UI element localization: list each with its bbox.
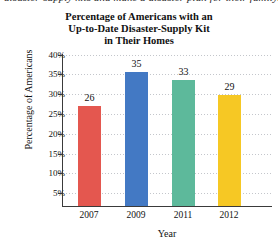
bar-chart-plot: 40% 35% 30% 25% 20% 15% 10% 5% 26 35 33 … bbox=[0, 0, 278, 252]
bar-value-2011: 33 bbox=[158, 67, 209, 77]
bar-value-2012: 29 bbox=[204, 82, 255, 92]
ytick-label-5: 5% bbox=[25, 189, 65, 198]
xtick-label-2011: 2011 bbox=[157, 210, 209, 220]
bar-value-2007: 26 bbox=[64, 93, 115, 103]
bar-value-2009: 35 bbox=[111, 59, 162, 69]
y-axis-title: Percentage of Americans bbox=[23, 20, 34, 180]
gridline-40 bbox=[63, 55, 272, 56]
bar-2011[interactable]: 33 bbox=[172, 80, 195, 206]
bar-2012[interactable]: 29 bbox=[218, 95, 241, 206]
y-axis-line bbox=[62, 54, 63, 207]
xtick-label-2012: 2012 bbox=[203, 210, 255, 220]
x-axis-line bbox=[62, 206, 272, 207]
xtick-label-2009: 2009 bbox=[110, 210, 162, 220]
x-axis-title: Year bbox=[62, 228, 272, 239]
bar-2009[interactable]: 35 bbox=[125, 72, 148, 206]
bar-2007[interactable]: 26 bbox=[78, 106, 101, 206]
xtick-label-2007: 2007 bbox=[63, 210, 115, 220]
